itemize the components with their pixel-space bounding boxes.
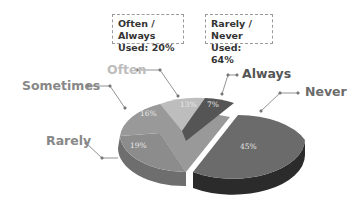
pct-rarely: 19% bbox=[130, 141, 147, 150]
label-never: Never bbox=[305, 84, 347, 99]
pct-often: 13% bbox=[180, 100, 197, 109]
label-often: Often bbox=[107, 62, 146, 77]
label-rarely: Rarely bbox=[46, 133, 91, 148]
label-sometimes: Sometimes bbox=[22, 78, 100, 93]
pie-chart: 45% 19% 16% 13% 7% bbox=[0, 0, 356, 200]
pct-never: 45% bbox=[240, 142, 257, 151]
pct-sometimes: 16% bbox=[140, 109, 157, 118]
pct-always: 7% bbox=[207, 100, 219, 109]
label-always: Always bbox=[242, 66, 291, 81]
